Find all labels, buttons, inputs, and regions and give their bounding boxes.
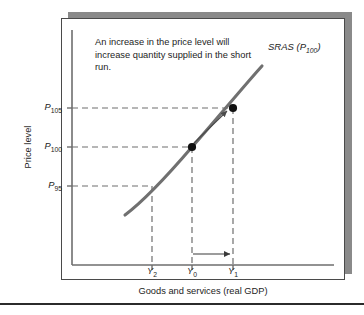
x-tick-label-y1: Y1 bbox=[218, 266, 248, 278]
y-tick-label-p105-sub: 105 bbox=[51, 107, 62, 114]
x-tick-label-y2-sub: 2 bbox=[153, 271, 157, 278]
x-axis-title: Goods and services (real GDP) bbox=[72, 286, 334, 296]
y-tick-label-p100-sub: 100 bbox=[51, 146, 62, 153]
y-tick-label-p95: P95 bbox=[22, 180, 62, 192]
movement-along-curve-arrow bbox=[194, 111, 227, 143]
sras-curve-label: SRAS (P100) bbox=[268, 41, 321, 54]
x-tick-label-y1-sub: 1 bbox=[234, 271, 238, 278]
sras-label-paren-close: ) bbox=[317, 41, 320, 52]
equilibrium-point-low bbox=[188, 143, 196, 151]
y-tick-label-p95-sub: 95 bbox=[54, 185, 62, 192]
equilibrium-point-high bbox=[229, 104, 237, 112]
sras-label-subscript: 100 bbox=[306, 47, 317, 54]
x-tick-label-y0-sub: 0 bbox=[193, 271, 197, 278]
sras-curve bbox=[125, 66, 262, 215]
x-tick-label-y2: Y2 bbox=[137, 266, 167, 278]
annotation-text: An increase in the price level will incr… bbox=[95, 36, 260, 74]
x-tick-label-y0: Y0 bbox=[177, 266, 207, 278]
bottom-divider-rule bbox=[0, 303, 364, 305]
y-tick-label-p100: P100 bbox=[22, 141, 62, 153]
sras-label-name: SRAS bbox=[268, 41, 294, 52]
figure-root: An increase in the price level will incr… bbox=[0, 0, 364, 315]
y-tick-label-p105: P105 bbox=[22, 102, 62, 114]
